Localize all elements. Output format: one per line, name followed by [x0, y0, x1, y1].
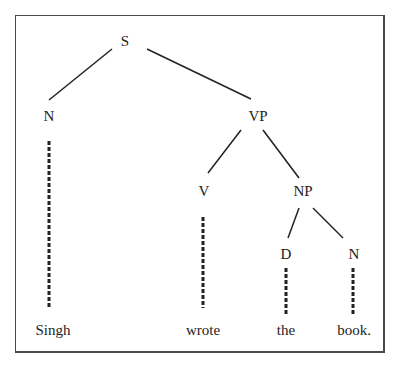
- leaf-singh: Singh: [35, 323, 70, 338]
- leaf-the: the: [277, 323, 295, 338]
- node-s: S: [121, 34, 129, 49]
- edge-np-d: [288, 208, 299, 238]
- node-v: V: [199, 184, 210, 199]
- node-np: NP: [293, 184, 312, 199]
- edge-s-vp: [147, 49, 251, 99]
- node-n-object: N: [349, 247, 360, 262]
- edge-vp-v: [208, 130, 241, 173]
- node-vp: VP: [248, 109, 267, 124]
- edge-s-n: [49, 49, 112, 100]
- edge-vp-np: [263, 130, 299, 178]
- node-d: D: [281, 247, 292, 262]
- leaf-book: book.: [337, 323, 371, 338]
- edge-np-n: [313, 208, 343, 238]
- node-n-subject: N: [44, 109, 55, 124]
- leaf-wrote: wrote: [186, 323, 220, 338]
